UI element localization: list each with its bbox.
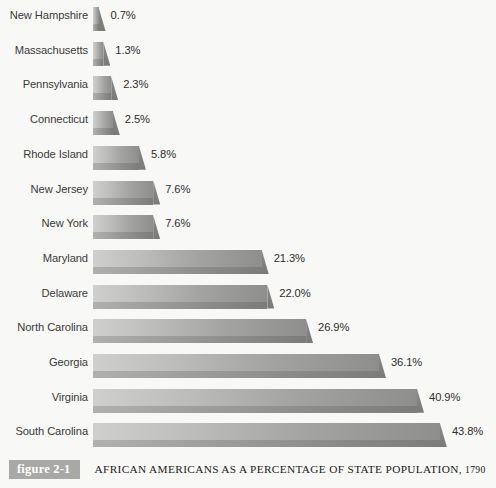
category-label-virginia: Virginia [0,390,88,404]
bar-north-carolina [93,319,306,345]
bar-end-chamfer [153,215,160,239]
value-label-virginia: 40.9% [429,390,460,404]
bar-maryland [93,250,262,276]
bar-rhode-island [93,146,139,172]
bar-row: Rhode Island5.8% [0,146,496,176]
bar-chart-plot-area: New Hampshire0.7%Massachusetts1.3%Pennsy… [0,0,496,452]
bar-georgia [93,354,379,380]
bar-end-chamfer [139,146,146,170]
value-label-north-carolina: 26.9% [318,320,349,334]
bar-pennsylvania [93,76,111,102]
category-label-connecticut: Connecticut [0,112,88,126]
bar-top-face [93,146,139,163]
figure-title-text: AFRICAN AMERICANS AS A PERCENTAGE OF STA… [95,463,462,475]
bar-connecticut [93,111,113,137]
bar-top-face [93,354,379,371]
bar-top-face [93,76,111,93]
bar-row: New Hampshire0.7% [0,7,496,37]
bar-massachusetts [93,42,103,68]
bar-end-chamfer [440,423,447,447]
bar-end-chamfer [153,181,160,205]
category-label-south-carolina: South Carolina [0,424,88,438]
bar-top-face [93,319,306,336]
value-label-new-hampshire: 0.7% [111,8,136,22]
category-label-delaware: Delaware [0,286,88,300]
bar-front-face [93,406,417,413]
category-label-new-hampshire: New Hampshire [0,8,88,22]
value-label-south-carolina: 43.8% [452,424,483,438]
bar-row: New York7.6% [0,215,496,245]
bar-end-chamfer [267,285,274,309]
category-label-rhode-island: Rhode Island [0,147,88,161]
bar-front-face [93,232,153,239]
bar-end-chamfer [262,250,269,274]
value-label-georgia: 36.1% [391,355,422,369]
figure-number-tag: figure 2-1 [9,460,80,479]
bar-row: Maryland21.3% [0,250,496,280]
value-label-rhode-island: 5.8% [151,147,176,161]
bar-top-face [93,250,262,267]
bar-row: Virginia40.9% [0,389,496,419]
bar-row: New Jersey7.6% [0,181,496,211]
category-label-maryland: Maryland [0,251,88,265]
bar-front-face [93,267,262,274]
bar-row: Delaware22.0% [0,285,496,315]
bar-end-chamfer [111,76,118,100]
bar-end-chamfer [306,319,313,343]
figure-title-year: 1790 [465,464,486,475]
bar-delaware [93,285,267,311]
bar-top-face [93,7,99,24]
bar-top-face [93,389,417,406]
bar-front-face [93,198,153,205]
category-label-georgia: Georgia [0,355,88,369]
bar-top-face [93,423,440,440]
figure-caption: figure 2-1 AFRICAN AMERICANS AS A PERCEN… [0,458,496,480]
bar-front-face [93,59,103,66]
value-label-massachusetts: 1.3% [115,43,140,57]
bar-row: Pennsylvania2.3% [0,76,496,106]
category-label-pennsylvania: Pennsylvania [0,77,88,91]
bar-top-face [93,285,267,302]
figure-title: AFRICAN AMERICANS AS A PERCENTAGE OF STA… [95,463,486,475]
bar-end-chamfer [417,389,424,413]
bar-south-carolina [93,423,440,449]
bar-row: North Carolina26.9% [0,319,496,349]
bar-new-york [93,215,153,241]
bar-front-face [93,336,306,343]
bar-virginia [93,389,417,415]
value-label-maryland: 21.3% [274,251,305,265]
category-label-massachusetts: Massachusetts [0,43,88,57]
bar-new-hampshire [93,7,99,33]
value-label-delaware: 22.0% [279,286,310,300]
bar-end-chamfer [103,42,110,66]
bar-end-chamfer [379,354,386,378]
bar-front-face [93,302,267,309]
bar-row: Massachusetts1.3% [0,42,496,72]
bar-front-face [93,24,99,31]
bar-top-face [93,181,153,198]
bar-end-chamfer [99,7,106,31]
bar-top-face [93,42,103,59]
bar-row: Connecticut2.5% [0,111,496,141]
category-label-new-jersey: New Jersey [0,182,88,196]
bar-new-jersey [93,181,153,207]
bar-front-face [93,371,379,378]
bar-front-face [93,93,111,100]
bar-top-face [93,111,113,128]
bar-row: Georgia36.1% [0,354,496,384]
value-label-connecticut: 2.5% [125,112,150,126]
bar-front-face [93,440,440,447]
value-label-new-york: 7.6% [165,216,190,230]
bar-front-face [93,128,113,135]
category-label-north-carolina: North Carolina [0,320,88,334]
category-label-new-york: New York [0,216,88,230]
bar-front-face [93,163,139,170]
bar-row: South Carolina43.8% [0,423,496,453]
value-label-new-jersey: 7.6% [165,182,190,196]
figure-2-1: New Hampshire0.7%Massachusetts1.3%Pennsy… [0,0,496,488]
bar-end-chamfer [113,111,120,135]
value-label-pennsylvania: 2.3% [123,77,148,91]
bar-top-face [93,215,153,232]
